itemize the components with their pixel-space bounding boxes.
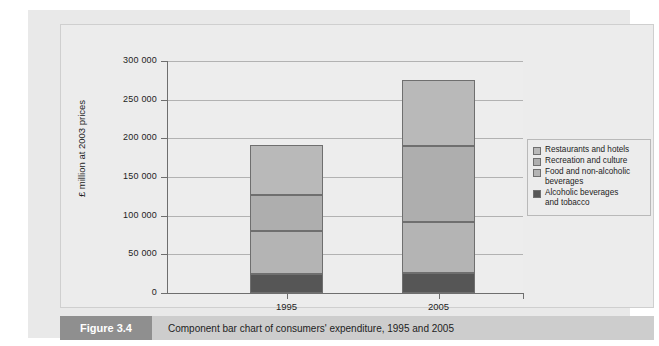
legend-swatch-icon xyxy=(533,158,541,166)
legend-swatch-icon xyxy=(533,169,541,177)
bar-segment xyxy=(250,274,323,293)
legend-item-label: Recreation and culture xyxy=(545,156,627,166)
figure-container: £ million at 2003 prices 050 000100 0001… xyxy=(0,0,659,346)
bar-segment xyxy=(402,146,475,222)
y-axis-title: £ million at 2003 prices xyxy=(76,69,87,229)
legend-item: Alcoholic beveragesand tobacco xyxy=(533,188,645,208)
bar-segment xyxy=(250,231,323,274)
y-axis-tick-mark xyxy=(161,138,167,139)
legend-item-label: Restaurants and hotels xyxy=(545,145,629,155)
legend-swatch-icon xyxy=(533,190,541,198)
bar-segment xyxy=(250,195,323,231)
figure-caption-text: Component bar chart of consumers' expend… xyxy=(168,316,454,340)
x-axis-tick-label: 1995 xyxy=(247,301,327,312)
x-axis-tick-mark xyxy=(439,293,440,299)
chart-frame: £ million at 2003 prices 050 000100 0001… xyxy=(60,24,654,308)
bar-1995 xyxy=(250,61,323,293)
y-axis-tick-labels: 050 000100 000150 000200 000250 000300 0… xyxy=(91,25,157,309)
y-axis-tick-mark xyxy=(161,293,167,294)
y-axis-tick-mark xyxy=(161,61,167,62)
bar-segment xyxy=(402,273,475,293)
legend-item: Food and non-alcoholicbeverages xyxy=(533,167,645,187)
figure-caption-strip: Figure 3.4 Component bar chart of consum… xyxy=(60,316,654,340)
y-axis-tick-mark xyxy=(161,100,167,101)
figure-panel: £ million at 2003 prices 050 000100 0001… xyxy=(28,10,630,338)
y-axis-tick-label: 50 000 xyxy=(128,248,157,258)
x-axis-end-tick-mark xyxy=(523,293,524,299)
legend-item: Recreation and culture xyxy=(533,156,645,166)
figure-number-badge: Figure 3.4 xyxy=(60,316,152,340)
y-axis-tick-mark xyxy=(161,177,167,178)
x-axis-tick-mark xyxy=(287,293,288,299)
legend-item: Restaurants and hotels xyxy=(533,145,645,155)
x-axis-tick-label: 2005 xyxy=(399,301,479,312)
y-axis-tick-label: 250 000 xyxy=(123,94,157,104)
legend-item-label: Alcoholic beveragesand tobacco xyxy=(545,188,618,208)
y-axis-tick-label: 300 000 xyxy=(123,55,157,65)
legend-item-label: Food and non-alcoholicbeverages xyxy=(545,167,630,187)
y-axis-line xyxy=(167,61,168,294)
bar-segment xyxy=(402,222,475,273)
y-axis-tick-label: 200 000 xyxy=(123,132,157,142)
y-axis-tick-mark xyxy=(161,216,167,217)
y-axis-tick-mark xyxy=(161,254,167,255)
bar-segment xyxy=(402,80,475,146)
x-axis-line xyxy=(167,293,523,294)
y-axis-tick-label: 150 000 xyxy=(123,171,157,181)
y-axis-tick-label: 0 xyxy=(152,287,157,297)
bar-2005 xyxy=(402,61,475,293)
chart-legend: Restaurants and hotelsRecreation and cul… xyxy=(527,139,651,216)
figure-number-label: Figure 3.4 xyxy=(80,322,132,334)
y-axis-tick-label: 100 000 xyxy=(123,210,157,220)
bar-segment xyxy=(250,145,323,195)
legend-swatch-icon xyxy=(533,147,541,155)
